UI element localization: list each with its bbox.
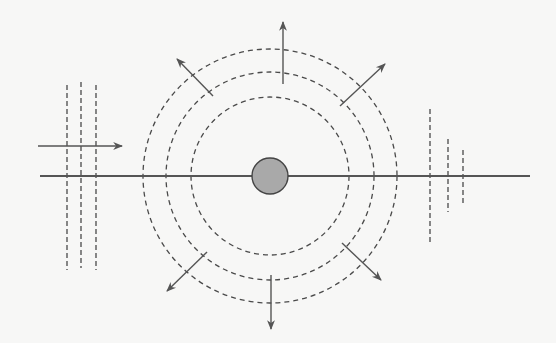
wavefront-diagram [0, 0, 556, 343]
arrow-icon-2 [177, 59, 213, 96]
arrow-icon-5 [342, 243, 381, 280]
arrow-icon-3 [340, 64, 385, 106]
point-source-icon [252, 158, 288, 194]
diagram-canvas [0, 0, 556, 343]
